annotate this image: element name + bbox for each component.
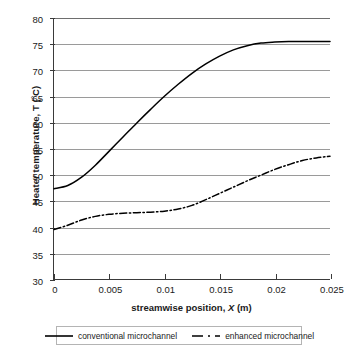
chart-legend: conventional microchannel enhanced micro…: [56, 326, 302, 345]
y-tick-label: 75: [32, 40, 43, 51]
y-tick-label: 35: [32, 249, 43, 260]
series-line-conventional: [54, 41, 330, 188]
y-tick-label: 60: [32, 118, 43, 129]
x-tick: 0.025: [331, 274, 332, 279]
x-axis-title-text: streamwise position, X (m): [131, 302, 251, 313]
y-tick-label: 30: [32, 276, 43, 287]
x-tick-label: 0.015: [209, 284, 233, 295]
y-tick-label: 40: [32, 223, 43, 234]
y-tick-label: 70: [32, 66, 43, 77]
legend-item-enhanced: enhanced microchannel: [191, 331, 314, 341]
legend-item-conventional: conventional microchannel: [44, 331, 177, 341]
x-tick-label: 0.025: [320, 284, 344, 295]
legend-label-enhanced: enhanced microchannel: [225, 331, 314, 341]
legend-swatch-solid: [44, 332, 74, 340]
plot-area: 3035404550556065707580 00.0050.010.0150.…: [53, 18, 330, 280]
x-tick-label: 0: [52, 284, 57, 295]
y-tick-label: 55: [32, 145, 43, 156]
legend-swatch-dash-dot: [191, 332, 221, 340]
y-tick-label: 65: [32, 92, 43, 103]
x-tick-label: 0.005: [99, 284, 123, 295]
legend-label-conventional: conventional microchannel: [78, 331, 177, 341]
x-tick-label: 0.01: [157, 284, 176, 295]
y-tick-label: 50: [32, 171, 43, 182]
series-lines: [54, 18, 330, 279]
x-tick-label: 0.02: [267, 284, 286, 295]
y-tick-label: 80: [32, 14, 43, 25]
y-tick-label: 45: [32, 197, 43, 208]
y-tick: 30: [50, 280, 55, 281]
series-line-enhanced: [54, 156, 330, 229]
chart-figure: Heater temperature, T (°C) 3035404550556…: [0, 0, 357, 352]
x-axis-title: streamwise position, X (m): [53, 302, 330, 313]
